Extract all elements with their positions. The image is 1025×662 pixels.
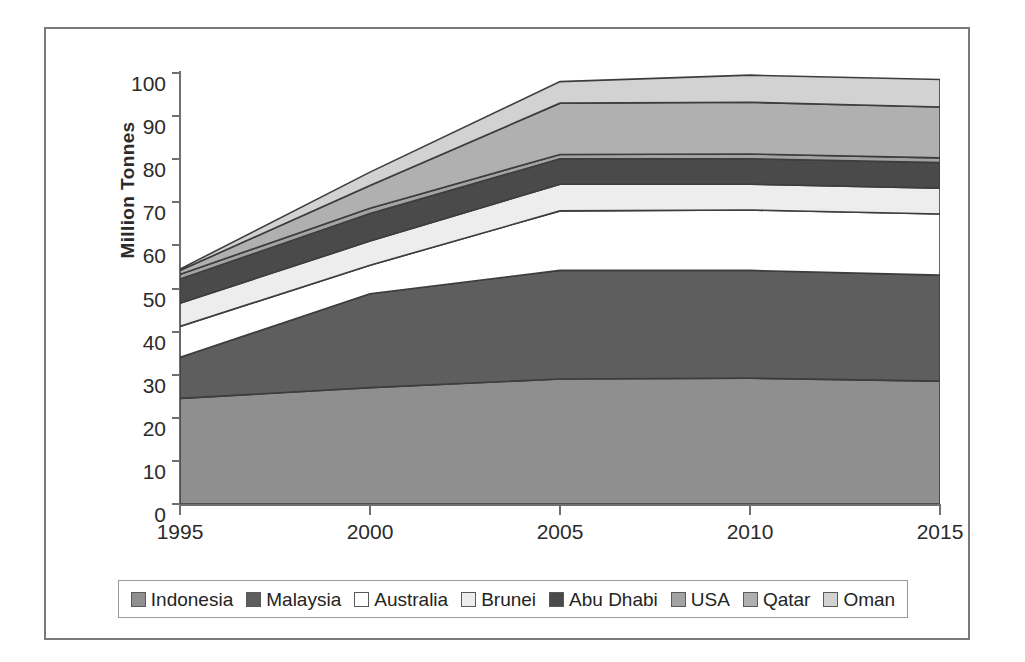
legend-item-brunei[interactable]: Brunei [461,590,536,609]
legend-item-label: Oman [843,590,895,609]
plot-area [180,73,940,504]
x-axis-line [179,504,941,506]
x-axis-tick [179,506,181,515]
x-axis-tick-label: 1995 [125,520,235,544]
legend-item-label: Malaysia [266,590,341,609]
x-axis-tick-label: 2010 [695,520,805,544]
legend-swatch-icon [549,592,564,607]
legend-swatch-icon [354,592,369,607]
y-axis-tick-label: 30 [120,375,166,396]
chart-figure: Million Tonnes 0102030405060708090100 19… [44,27,970,640]
legend-swatch-icon [823,592,838,607]
y-axis-tick-label: 80 [120,159,166,180]
legend-item-oman[interactable]: Oman [823,590,895,609]
x-axis-tick-label: 2015 [885,520,995,544]
y-axis-tick-label: 90 [120,116,166,137]
stacked-area-plot [180,73,940,504]
legend-swatch-icon [461,592,476,607]
legend-item-label: Indonesia [151,590,233,609]
y-axis-tick-label: 60 [120,245,166,266]
x-axis-tick [559,506,561,515]
legend-item-label: Australia [374,590,448,609]
y-axis-tick-label: 50 [120,289,166,310]
y-axis-tick-label: 100 [120,73,166,94]
x-axis-tick [369,506,371,515]
legend-item-abu-dhabi[interactable]: Abu Dhabi [549,590,658,609]
x-axis-tick [939,506,941,515]
legend-item-australia[interactable]: Australia [354,590,448,609]
y-axis-tick-label: 40 [120,332,166,353]
legend-swatch-icon [743,592,758,607]
x-axis-tick-label: 2000 [315,520,425,544]
area-series-indonesia [180,378,940,504]
legend-item-label: Qatar [763,590,811,609]
legend-item-usa[interactable]: USA [671,590,730,609]
x-axis-tick [749,506,751,515]
legend-item-label: Abu Dhabi [569,590,658,609]
legend-item-label: USA [691,590,730,609]
legend-swatch-icon [671,592,686,607]
legend-swatch-icon [246,592,261,607]
legend-swatch-icon [131,592,146,607]
y-axis-tick-label: 10 [120,461,166,482]
legend-item-qatar[interactable]: Qatar [743,590,811,609]
y-axis-tick-label: 20 [120,418,166,439]
x-axis-tick-label: 2005 [505,520,615,544]
legend-item-label: Brunei [481,590,536,609]
legend-item-indonesia[interactable]: Indonesia [131,590,233,609]
chart-legend: IndonesiaMalaysiaAustraliaBruneiAbu Dhab… [118,580,908,618]
legend-item-malaysia[interactable]: Malaysia [246,590,341,609]
y-axis-tick-label: 70 [120,202,166,223]
